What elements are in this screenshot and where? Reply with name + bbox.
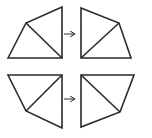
diagonal-line xyxy=(26,23,62,58)
quadrilateral-after xyxy=(81,75,134,127)
quadrilateral-after xyxy=(81,8,131,58)
diagram-row-1 xyxy=(8,7,131,58)
quadrilateral-before xyxy=(8,7,62,58)
quadrilateral-before xyxy=(8,75,62,128)
diagonal-flip-diagram xyxy=(0,0,152,138)
diagonal-line xyxy=(81,75,120,112)
diagonal-line xyxy=(26,75,62,111)
diagram-row-2 xyxy=(8,75,134,128)
diagonal-line xyxy=(81,23,119,58)
